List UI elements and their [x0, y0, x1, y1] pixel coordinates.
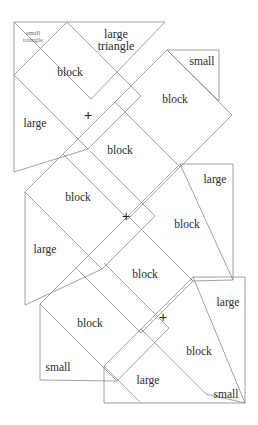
- quilt-geometry: [0, 0, 258, 425]
- tangram-edge: [180, 164, 233, 280]
- line-segments: [14, 22, 245, 403]
- tangram-edge: [102, 216, 155, 269]
- tangram-edge: [193, 280, 233, 281]
- tangram-edge: [193, 277, 245, 403]
- tangram-edge: [40, 268, 76, 304]
- tangram-edge: [14, 75, 88, 149]
- tangram-edge: [91, 22, 165, 99]
- tangram-edge: [141, 281, 193, 333]
- tangram-edge: [14, 149, 88, 172]
- tangram-edge: [115, 50, 167, 102]
- tangram-edge: [104, 366, 141, 403]
- tangram-edge: [90, 151, 155, 216]
- tangram-edge: [25, 154, 63, 192]
- tangram-edge: [141, 277, 193, 329]
- tangram-edge: [25, 269, 102, 305]
- tangram-edge: [167, 50, 232, 115]
- tangram-edge: [104, 263, 169, 328]
- tangram-edge: [40, 304, 117, 381]
- tangram-edge: [206, 394, 245, 403]
- tangram-edge: [76, 216, 128, 268]
- tangram-edge: [128, 167, 180, 219]
- tangram-edge: [104, 329, 141, 366]
- tangram-edge: [128, 164, 180, 216]
- tangram-edge: [25, 192, 102, 269]
- tangram-edge: [76, 268, 141, 333]
- tangram-edge: [180, 115, 232, 167]
- tangram-edge: [63, 154, 128, 219]
- tangram-diagram: smalltrianglelargetriangleblocksmallbloc…: [0, 0, 258, 425]
- tangram-edge: [40, 380, 117, 381]
- tangram-edge: [117, 328, 169, 381]
- tangram-edge: [14, 22, 91, 99]
- tangram-edge: [141, 329, 206, 394]
- tangram-edge: [115, 102, 180, 167]
- tangram-edge: [128, 216, 193, 281]
- tangram-edge: [88, 96, 141, 149]
- tangram-edge: [63, 102, 115, 154]
